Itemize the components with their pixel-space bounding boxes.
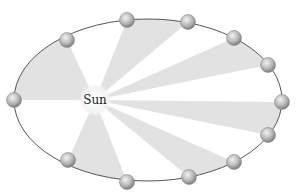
planet-icon bbox=[7, 93, 22, 108]
planet-icon bbox=[227, 155, 242, 170]
planet-icon bbox=[120, 13, 135, 28]
planet-icon bbox=[261, 128, 276, 143]
shaded-sector bbox=[0, 4, 95, 100]
sun-label: Sun bbox=[83, 93, 107, 107]
planet-icon bbox=[120, 175, 135, 190]
planet-icon bbox=[60, 33, 75, 48]
planet-icon bbox=[275, 95, 290, 110]
planet-icon bbox=[227, 31, 242, 46]
planet-icon bbox=[261, 58, 276, 73]
planet-icon bbox=[182, 170, 197, 185]
equal-area-sectors bbox=[0, 0, 307, 196]
orbit-diagram: Sun bbox=[0, 0, 307, 196]
planet-icon bbox=[181, 15, 196, 30]
planet-icon bbox=[61, 153, 76, 168]
